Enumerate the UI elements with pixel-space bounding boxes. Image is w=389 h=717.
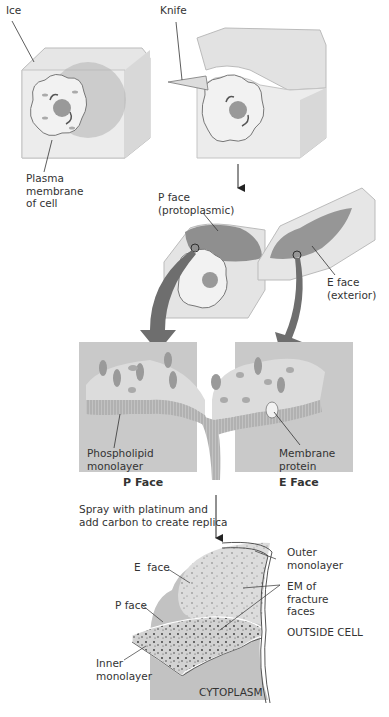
ice-label: Ice [6,4,21,17]
spray-instruction: Spray with platinum and add carbon to cr… [79,503,228,528]
ice-block-1 [12,21,150,172]
cytoplasm-label: CYTOPLASM [199,686,263,699]
knife-label: Knife [160,4,187,17]
e-face-exterior-label: E face (exterior) [327,276,376,301]
outside-cell-label: OUTSIDE CELL [287,626,363,639]
freeze-fracture-diagram [0,0,389,717]
outer-monolayer-label: Outer monolayer [287,546,343,571]
ice-block-2 [168,22,326,188]
p-face-replica-label: P face [115,599,147,612]
inner-monolayer-label: Inner monolayer [96,657,152,682]
phospholipid-monolayer-label: Phospholipid monolayer [87,447,154,472]
membrane-protein-label: Membrane protein [279,447,335,472]
p-face-caption: P Face [123,477,163,490]
e-face-caption: E Face [279,477,319,490]
em-fracture-faces-label: EM of fracture faces [287,580,329,618]
e-face-replica-label: E face [134,561,170,574]
plasma-membrane-label: Plasma membrane of cell [26,172,83,210]
p-face-protoplasmic-label: P face (protoplasmic) [158,191,234,216]
